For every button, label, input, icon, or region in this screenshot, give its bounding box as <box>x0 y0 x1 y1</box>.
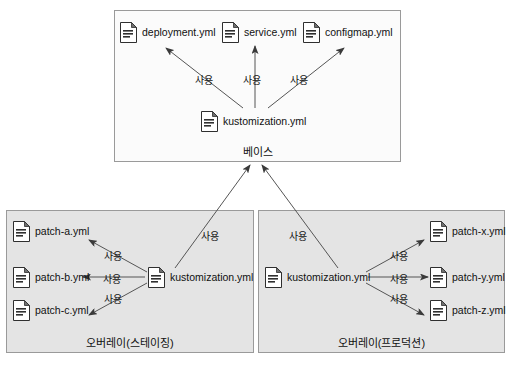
node-label: service.yml <box>244 27 297 38</box>
node-deployment-yml[interactable]: deployment.yml <box>120 22 216 43</box>
edge-label-base-service: 사용 <box>243 72 261 87</box>
node-configmap-yml[interactable]: configmap.yml <box>303 22 393 43</box>
group-label-overlay-staging: 오버레이(스테이징) <box>6 334 254 350</box>
node-patch-a-yml[interactable]: patch-a.yml <box>13 221 89 242</box>
edge-production-to-base <box>262 165 338 268</box>
edge-label-production-to-base: 사용 <box>289 228 307 243</box>
group-label-base: 베이스 <box>114 143 401 159</box>
document-icon <box>430 267 447 288</box>
node-label: patch-z.yml <box>452 305 506 316</box>
edge-label-staging-patch-b: 사용 <box>103 271 121 286</box>
node-label: kustomization.yml <box>287 272 370 283</box>
document-icon <box>430 221 447 242</box>
document-icon <box>148 267 165 288</box>
node-patch-z-yml[interactable]: patch-z.yml <box>430 300 506 321</box>
document-icon <box>265 267 282 288</box>
node-label: patch-y.yml <box>452 272 505 283</box>
node-label: patch-b.yml <box>35 272 89 283</box>
node-staging-kustomization-yml[interactable]: kustomization.yml <box>148 267 253 288</box>
edge-label-staging-patch-a: 사용 <box>104 248 122 263</box>
node-label: patch-a.yml <box>35 226 89 237</box>
group-label-overlay-production: 오버레이(프로덕션) <box>258 334 505 350</box>
node-label: patch-c.yml <box>35 305 89 316</box>
edge-label-base-deployment: 사용 <box>195 72 213 87</box>
document-icon <box>13 267 30 288</box>
document-icon <box>201 111 218 132</box>
node-patch-c-yml[interactable]: patch-c.yml <box>13 300 89 321</box>
node-label: kustomization.yml <box>223 116 306 127</box>
document-icon <box>13 221 30 242</box>
edge-label-staging-to-base: 사용 <box>201 228 219 243</box>
node-patch-b-yml[interactable]: patch-b.yml <box>13 267 89 288</box>
edge-label-base-configmap: 사용 <box>290 72 308 87</box>
edge-label-production-patch-z: 사용 <box>390 291 408 306</box>
node-patch-y-yml[interactable]: patch-y.yml <box>430 267 505 288</box>
edge-label-production-patch-y: 사용 <box>390 271 408 286</box>
document-icon <box>222 22 239 43</box>
document-icon <box>13 300 30 321</box>
edge-label-staging-patch-c: 사용 <box>104 291 122 306</box>
node-label: deployment.yml <box>142 27 216 38</box>
node-patch-x-yml[interactable]: patch-x.yml <box>430 221 506 242</box>
node-base-kustomization-yml[interactable]: kustomization.yml <box>201 111 306 132</box>
document-icon <box>303 22 320 43</box>
document-icon <box>430 300 447 321</box>
diagram-canvas: deployment.yml service.yml configmap.yml <box>0 0 513 365</box>
document-icon <box>120 22 137 43</box>
edge-label-production-patch-x: 사용 <box>390 248 408 263</box>
edge-staging-to-base <box>175 165 250 268</box>
node-label: configmap.yml <box>325 27 393 38</box>
node-production-kustomization-yml[interactable]: kustomization.yml <box>265 267 370 288</box>
node-service-yml[interactable]: service.yml <box>222 22 297 43</box>
node-label: kustomization.yml <box>170 272 253 283</box>
node-label: patch-x.yml <box>452 226 506 237</box>
